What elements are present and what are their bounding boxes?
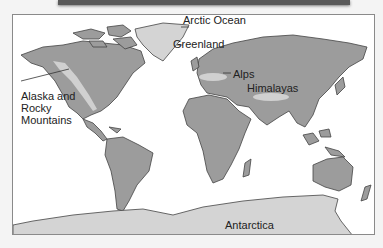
label-alaska-line2: Rocky (21, 102, 52, 114)
label-alps: Alps (233, 68, 254, 80)
label-alaska-line1: Alaska and (21, 90, 75, 102)
label-greenland: Greenland (173, 38, 224, 50)
label-antarctica: Antarctica (225, 219, 274, 231)
himalaya-range (253, 93, 289, 101)
australia (313, 157, 353, 191)
label-himalayas: Himalayas (247, 82, 298, 94)
alps-range (199, 73, 227, 81)
antarctica (13, 195, 353, 235)
south-america (105, 137, 153, 211)
africa (183, 95, 251, 183)
map-frame: Arctic Ocean Greenland Alaska and Rocky … (12, 14, 375, 235)
label-alaska-line3: Mountains (21, 114, 72, 126)
label-arctic-ocean: Arctic Ocean (183, 14, 246, 26)
top-shadow-bar (58, 0, 350, 5)
